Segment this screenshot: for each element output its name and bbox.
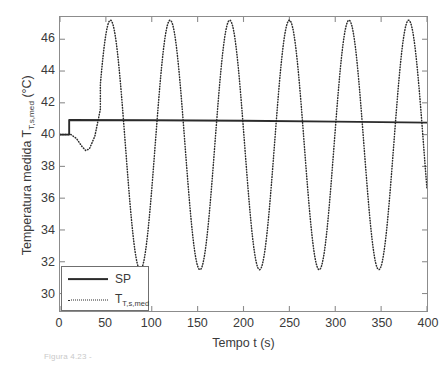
x-tick-label-300: 300 — [325, 317, 346, 330]
x-tick-label-200: 200 — [233, 317, 254, 330]
x-tick-label-0: 0 — [56, 317, 63, 330]
legend-entry-measured-temperature: TT,s,med — [62, 289, 148, 311]
legend-label-sp: SP — [115, 272, 131, 286]
y-axis-label-unit: (°C) — [20, 75, 34, 101]
legend-swatch-dotted-line-icon — [68, 294, 108, 306]
legend-box: SP TT,s,med — [61, 266, 149, 311]
legend-label-subscript: T,s,med — [122, 299, 149, 308]
x-tick-label-350: 350 — [371, 317, 392, 330]
x-tick-label-150: 150 — [187, 317, 208, 330]
figure-caption-fragment: Figura 4.23 - — [44, 352, 92, 361]
x-axis-label: Tempo t (s) — [59, 336, 428, 350]
legend-swatch-solid-line-icon — [68, 273, 108, 285]
x-tick-label-250: 250 — [279, 317, 300, 330]
legend-label-measured-temperature: TT,s,med — [115, 292, 149, 308]
x-axis-tick-labels: 050100150200250300350400 — [59, 317, 428, 333]
x-tick-label-400: 400 — [418, 317, 439, 330]
y-axis-label: Temperatura medida TT,s,med (°C) — [20, 15, 37, 315]
legend-entry-sp: SP — [62, 268, 148, 290]
x-tick-label-50: 50 — [98, 317, 112, 330]
series-measured-temperature-line — [60, 20, 427, 270]
y-axis-label-main: Temperatura medida T — [20, 130, 34, 256]
figure-container: 303234363840424446 050100150200250300350… — [0, 0, 445, 368]
x-tick-label-100: 100 — [141, 317, 162, 330]
y-axis-label-subscript: T,s,med — [27, 101, 36, 130]
